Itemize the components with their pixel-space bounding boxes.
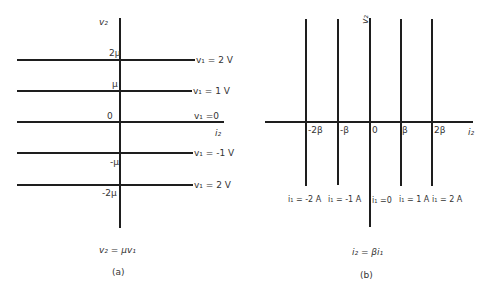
panel-a-label-v1-1v: v₁ = 1 V bbox=[193, 86, 230, 96]
panel-b-tick-neg-2beta: -2β bbox=[308, 125, 323, 135]
panel-b-x-axis-label: i₂ bbox=[468, 127, 474, 137]
panel-b-line-i1-2a bbox=[431, 19, 433, 186]
panel-a-x-axis-label: i₂ bbox=[215, 128, 221, 138]
panel-b-label-i1-neg1a: i₁ = -1 A bbox=[328, 195, 361, 205]
panel-a-line-v1-0-i2-axis bbox=[17, 121, 224, 123]
panel-b-label-i1-0: i₁ =0 bbox=[372, 196, 392, 206]
panel-a-tick-neg-mu: -μ bbox=[110, 157, 119, 167]
panel-a-tick-0: 0 bbox=[107, 111, 113, 121]
panel-b-line-i1-neg1a bbox=[337, 19, 339, 185]
panel-a-tick-2mu: 2μ bbox=[109, 48, 120, 58]
panel-b-equation: i₂ = βi₁ bbox=[352, 247, 383, 257]
panel-a-line-v1-1v bbox=[17, 90, 192, 92]
panel-b-caption: (b) bbox=[360, 270, 373, 280]
panel-a-y-axis-label: v₂ bbox=[99, 17, 108, 27]
panel-b-tick-0: 0 bbox=[372, 125, 378, 135]
panel-a-label-v1-neg1v: v₁ = -1 V bbox=[194, 148, 234, 158]
panel-a-tick-neg-2mu: -2μ bbox=[102, 188, 117, 198]
panel-a-caption: (a) bbox=[112, 267, 125, 277]
panel-a-label-v1-neg2v: v₁ = 2 V bbox=[194, 180, 231, 190]
panel-b-tick-neg-beta: -β bbox=[340, 125, 349, 135]
panel-a-label-v1-2v: v₁ = 2 V bbox=[196, 55, 233, 65]
panel-a-tick-mu: μ bbox=[112, 79, 118, 89]
panel-b-y-axis-label: v₂ bbox=[360, 15, 370, 24]
panel-a-line-v1-neg2v bbox=[17, 184, 193, 186]
panel-b-label-i1-neg2a: i₁ = -2 A bbox=[288, 195, 321, 205]
panel-b-label-i1-2a: i₁ = 2 A bbox=[432, 195, 462, 205]
panel-a-line-v1-2v bbox=[17, 59, 195, 61]
panel-b-line-i1-1a bbox=[400, 19, 402, 186]
panel-b-line-i1-neg2a bbox=[305, 19, 307, 186]
panel-b-tick-beta: β bbox=[402, 125, 408, 135]
panel-b-tick-2beta: 2β bbox=[434, 125, 445, 135]
panel-b-line-i1-0-v2-axis bbox=[369, 18, 371, 227]
panel-a-label-v1-0: v₁ =0 bbox=[194, 111, 219, 121]
panel-b-label-i1-1a: i₁ = 1 A bbox=[399, 195, 429, 205]
panel-a-line-v1-neg1v bbox=[17, 152, 193, 154]
panel-a-equation: v₂ = μv₁ bbox=[99, 245, 136, 255]
